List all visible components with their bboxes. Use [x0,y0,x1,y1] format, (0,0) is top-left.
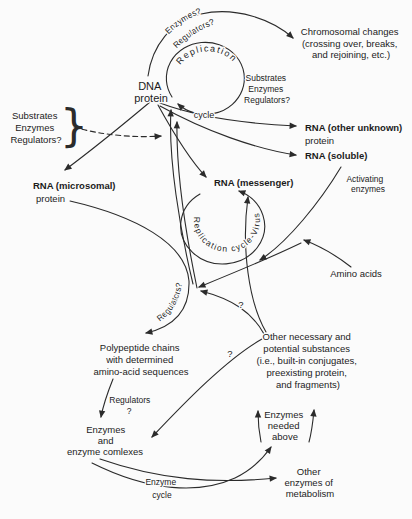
substrates-inner-line-2: Enzymes [248,84,283,94]
enzymes-complexes-label: Enzymes and enzyme comlexes [67,424,143,457]
rna-microsomal-line-1: RNA (microsomal) [33,180,116,191]
replication-label-text: Replication [174,43,239,66]
other-necessary-line-2: potential substances [263,343,350,354]
diagram-page: Replication Enzymes? Regulators? Replica… [0,0,412,519]
curved-labels: Replication Enzymes? Regulators? Replica… [155,6,262,324]
chromosomal-line-2: (crossing over, breaks, [302,38,398,49]
regulators-curve-text: Regulators? [155,282,184,324]
other-necessary-line-3: (i.e., built-in conjugates, [257,355,357,366]
other-necessary-line-1: Other necessary and [263,331,351,342]
chromosomal-changes-label: Chromosomal changes (crossing over, brea… [301,26,401,60]
rna-messenger-label: RNA (messenger) [214,177,293,188]
regulators-curve-label: Regulators? [155,282,184,324]
enzymes-complexes-line-2: and [98,435,114,446]
amino-acids-label: Amino acids [330,268,382,279]
regulators-mid-line-2: ? [127,406,132,416]
activating-enzymes-label: Activating enzymes [346,174,385,194]
substrates-left-label: Substrates Enzymes Regulators? [10,110,61,145]
enzymes-needed-line-3: above [272,431,298,442]
substrates-left-line-3: Regulators? [10,134,61,145]
arrow-other-to-convergence [201,291,264,334]
arrow-dna-to-rna-soluble [160,106,296,155]
rna-other-line-1: RNA (other unknown) [305,122,402,133]
chromosomal-line-3: and rejoining, etc.) [312,49,390,60]
diagram-lines [65,12,351,488]
substrates-left-line-2: Enzymes [15,122,54,133]
replication-cycle-diagram: Replication Enzymes? Regulators? Replica… [0,0,412,519]
virus-cycle-text: Replication cycle-Virus [192,211,262,254]
cycle-top-label: cycle [194,110,215,120]
replication-label: Replication [174,43,239,66]
arrow-amino-acids [304,240,351,267]
substrates-left-line-1: Substrates [12,110,58,121]
arrow-dna-to-chromosomal [148,12,293,76]
question-mark-upper: ? [238,299,243,310]
other-enzymes-label: Other enzymes of metabolism [284,466,335,499]
rna-microsomal-label: RNA (microsomal) protein [33,180,118,204]
polypeptide-line-3: amino-acid sequences [93,366,188,377]
rna-soluble-label: RNA (soluble) [305,150,367,161]
rna-other-label: RNA (other unknown) protein [305,122,405,146]
substrates-left-brace: } [60,100,88,151]
enzymes-complexes-line-3: enzyme comlexes [67,446,143,457]
other-necessary-label: Other necessary and potential substances… [257,331,360,390]
enzymes-needed-line-1: Enzymes [264,409,303,420]
activating-line-2: enzymes [351,184,385,194]
enzyme-cycle-line-1: Enzyme [145,477,176,487]
polypeptide-line-1: Polypeptide chains [100,342,180,353]
enzymes-needed-label: Enzymes needed above [264,409,306,442]
other-enzymes-line-3: metabolism [286,488,335,499]
dna-line-2: protein [134,92,168,104]
other-necessary-line-4: preexisting protein, [267,367,347,378]
regulators-mid-line-1: Regulators [109,395,150,405]
polypeptide-label: Polypeptide chains with determined amino… [93,342,188,377]
arrow-needed-right-up [309,410,314,442]
chromosomal-line-1: Chromosomal changes [301,26,399,37]
regulators-mid-label: Regulators ? [109,395,152,416]
arrow-needed-left-up [258,411,261,442]
dna-line-1: DNA [138,80,162,92]
enzyme-cycle-line-2: cycle [152,490,172,500]
dna-protein-label: DNA protein [134,80,168,104]
rna-microsomal-line-2: protein [36,193,65,204]
question-mark-lower: ? [227,348,232,359]
rna-other-line-2: protein [305,135,334,146]
activating-line-1: Activating [346,174,383,184]
virus-cycle-label: Replication cycle-Virus [192,211,262,254]
enzyme-cycle-label: Enzyme cycle [145,477,178,500]
enzymes-complexes-line-1: Enzymes [86,424,125,435]
other-enzymes-line-1: Other [297,466,321,477]
other-necessary-line-5: and fragments) [276,379,340,390]
substrates-inner-line-1: Substrates [245,73,286,83]
polypeptide-line-2: with determined [105,354,173,365]
other-enzymes-line-2: enzymes of [284,477,333,488]
substrates-inner-line-3: Regulators? [244,95,290,105]
substrates-inner-label: Substrates Enzymes Regulators? [244,73,290,105]
enzymes-needed-line-2: needed [268,420,300,431]
